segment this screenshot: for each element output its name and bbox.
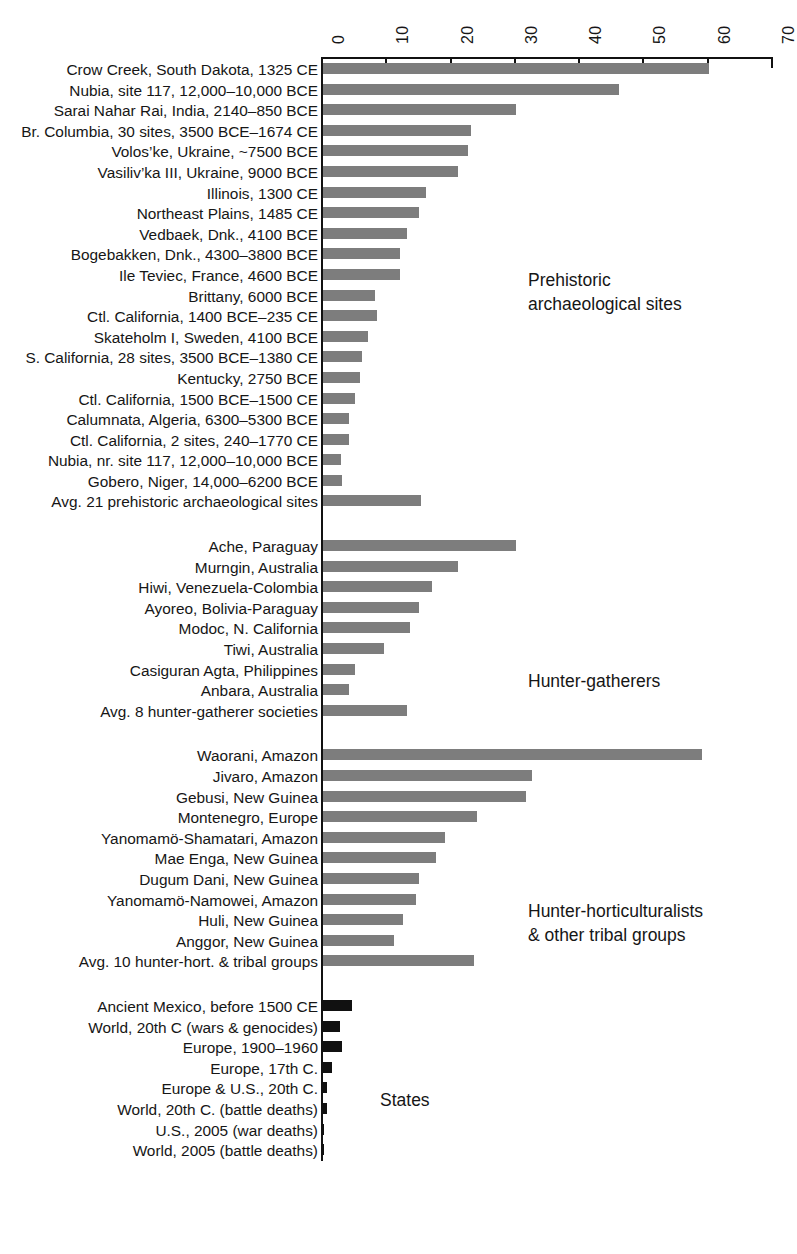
bar <box>323 770 532 781</box>
bar <box>323 187 426 198</box>
bar-row: Montenegro, Europe <box>0 807 797 828</box>
bar <box>323 873 419 884</box>
bar-row-label: Skateholm I, Sweden, 4100 BCE <box>0 328 318 347</box>
bar-row: Avg. 21 prehistoric archaeological sites <box>0 491 797 512</box>
bar <box>323 125 471 136</box>
bar <box>323 1000 352 1011</box>
bar-row: Br. Columbia, 30 sites, 3500 BCE–1674 CE <box>0 121 797 142</box>
bar-row: Murngin, Australia <box>0 557 797 578</box>
bar-row: Vasiliv’ka III, Ukraine, 9000 BCE <box>0 162 797 183</box>
bar-row-label: Vasiliv’ka III, Ukraine, 9000 BCE <box>0 163 318 182</box>
bar <box>323 495 421 506</box>
bar-row: Gobero, Niger, 14,000–6200 BCE <box>0 471 797 492</box>
bar-row-label: Tiwi, Australia <box>0 640 318 659</box>
bar-row: S. California, 28 sites, 3500 BCE–1380 C… <box>0 347 797 368</box>
group-label-states: States <box>380 1088 430 1112</box>
bar-row-label: S. California, 28 sites, 3500 BCE–1380 C… <box>0 348 318 367</box>
bar-row: Waorani, Amazon <box>0 745 797 766</box>
x-tick-label: 60 <box>716 26 734 44</box>
bar <box>323 540 516 551</box>
x-tick-label: 40 <box>587 26 605 44</box>
bar-row-label: Casiguran Agta, Philippines <box>0 661 318 680</box>
bar-row: Nubia, nr. site 117, 12,000–10,000 BCE <box>0 450 797 471</box>
x-tick-label: 0 <box>330 35 348 44</box>
bar-row: Ayoreo, Bolivia-Paraguay <box>0 598 797 619</box>
bar-row-label: Gobero, Niger, 14,000–6200 BCE <box>0 472 318 491</box>
bar-row-label: Ctl. California, 1400 BCE–235 CE <box>0 307 318 326</box>
bar-row: Avg. 10 hunter-hort. & tribal groups <box>0 951 797 972</box>
bar <box>323 622 410 633</box>
bar <box>323 791 526 802</box>
bar-row-label: Ile Teviec, France, 4600 BCE <box>0 266 318 285</box>
bar <box>323 269 400 280</box>
bar-row-label: Ayoreo, Bolivia-Paraguay <box>0 599 318 618</box>
bar <box>323 475 342 486</box>
bar-row-label: Ancient Mexico, before 1500 CE <box>0 997 318 1016</box>
bar-row: Nubia, site 117, 12,000–10,000 BCE <box>0 80 797 101</box>
bar-row-label: Avg. 8 hunter-gatherer societies <box>0 702 318 721</box>
bar <box>323 914 403 925</box>
bar-row-label: Mae Enga, New Guinea <box>0 849 318 868</box>
bar-row-label: Modoc, N. California <box>0 619 318 638</box>
bar-row-label: Vedbaek, Dnk., 4100 BCE <box>0 225 318 244</box>
bar <box>323 290 375 301</box>
bar-row-label: Waorani, Amazon <box>0 746 318 765</box>
bar <box>323 832 445 843</box>
bar <box>323 372 360 383</box>
bar-row: Bogebakken, Dnk., 4300–3800 BCE <box>0 244 797 265</box>
bar-row-label: World, 2005 (battle deaths) <box>0 1141 318 1160</box>
bar-row: Gebusi, New Guinea <box>0 787 797 808</box>
bar <box>323 643 384 654</box>
bar <box>323 1041 342 1052</box>
bar-row-label: Kentucky, 2750 BCE <box>0 369 318 388</box>
bar-row-label: Ctl. California, 2 sites, 240–1770 CE <box>0 431 318 450</box>
bar-row: World, 20th C (wars & genocides) <box>0 1017 797 1038</box>
group-label-prehistoric: Prehistoric archaeological sites <box>528 268 682 316</box>
bar-row-label: Europe & U.S., 20th C. <box>0 1079 318 1098</box>
bar-row-label: Gebusi, New Guinea <box>0 788 318 807</box>
bar-row-label: Murngin, Australia <box>0 558 318 577</box>
bar <box>323 602 419 613</box>
bar-row-label: Montenegro, Europe <box>0 808 318 827</box>
group-spacer <box>0 972 797 996</box>
group-spacer <box>0 721 797 745</box>
bar-row-label: Dugum Dani, New Guinea <box>0 870 318 889</box>
bar-row: Dugum Dani, New Guinea <box>0 869 797 890</box>
bar-row: Calumnata, Algeria, 6300–5300 BCE <box>0 409 797 430</box>
bar-row: Jivaro, Amazon <box>0 766 797 787</box>
bar-row-label: Illinois, 1300 CE <box>0 184 318 203</box>
x-tick-label: 50 <box>651 26 669 44</box>
bar <box>323 684 349 695</box>
bar <box>323 1082 327 1093</box>
bar-row-label: Europe, 1900–1960 <box>0 1038 318 1057</box>
bar <box>323 1103 327 1114</box>
bar-row-label: Europe, 17th C. <box>0 1059 318 1078</box>
bar <box>323 166 458 177</box>
bar-row-label: Brittany, 6000 BCE <box>0 287 318 306</box>
bar-row: Volos’ke, Ukraine, ~7500 BCE <box>0 141 797 162</box>
bar-row-label: Ctl. California, 1500 BCE–1500 CE <box>0 390 318 409</box>
bar <box>323 811 477 822</box>
bar-row-label: World, 20th C. (battle deaths) <box>0 1100 318 1119</box>
bar <box>323 248 400 259</box>
bar <box>323 705 407 716</box>
bar-row-label: Avg. 10 hunter-hort. & tribal groups <box>0 952 318 971</box>
bar-row: U.S., 2005 (war deaths) <box>0 1120 797 1141</box>
bar-row-label: Yanomamö-Shamatari, Amazon <box>0 829 318 848</box>
group-spacer <box>0 512 797 536</box>
bar-row: Europe, 17th C. <box>0 1058 797 1079</box>
bar-row: Ctl. California, 1500 BCE–1500 CE <box>0 389 797 410</box>
x-tick-label: 30 <box>523 26 541 44</box>
bar-row-label: Jivaro, Amazon <box>0 767 318 786</box>
bar-row-label: Bogebakken, Dnk., 4300–3800 BCE <box>0 245 318 264</box>
bar-row: Mae Enga, New Guinea <box>0 848 797 869</box>
x-tick-label: 70 <box>780 26 797 44</box>
bar-row-label: Sarai Nahar Rai, India, 2140–850 BCE <box>0 101 318 120</box>
bar-row: Ache, Paraguay <box>0 536 797 557</box>
bar-row-label: Northeast Plains, 1485 CE <box>0 204 318 223</box>
bar-row: Modoc, N. California <box>0 618 797 639</box>
bar <box>323 104 516 115</box>
bar <box>323 454 341 465</box>
bar <box>323 581 432 592</box>
bar <box>323 1062 332 1073</box>
